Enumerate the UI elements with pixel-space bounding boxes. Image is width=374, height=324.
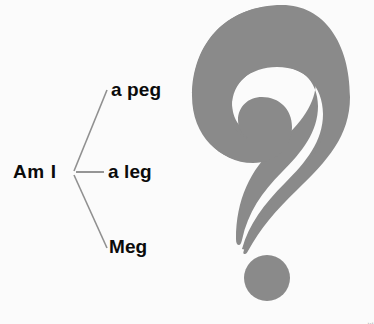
connector-line-a-peg: [74, 90, 107, 171]
connector-line-meg: [74, 175, 107, 248]
question-mark-outline: [193, 5, 350, 254]
branch-diagram: Am I a peg a leg Meg: [0, 0, 195, 324]
page-root: Am I a peg a leg Meg SIDE OF THIS PAGE: [0, 0, 374, 324]
question-mark-icon: [190, 0, 374, 324]
branch-node-label-meg: Meg: [109, 237, 147, 257]
branch-node-label-a-peg: a peg: [111, 80, 161, 100]
question-mark-dot: [244, 255, 290, 301]
root-node-label: Am I: [13, 162, 57, 182]
branch-node-label-a-leg: a leg: [108, 162, 152, 182]
